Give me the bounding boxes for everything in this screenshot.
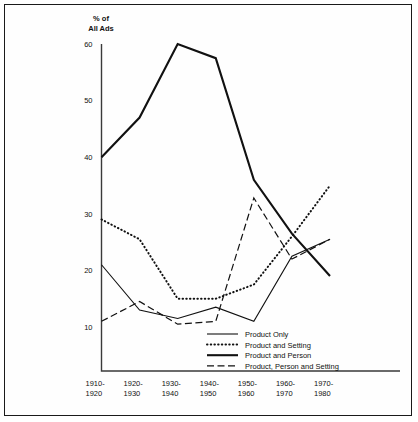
- legend-label-3: Product and Person: [245, 351, 311, 360]
- x-tick-label-bottom: 1940: [162, 389, 179, 398]
- x-tick-label-top: 1940-: [200, 379, 220, 388]
- y-tick-label: 20: [84, 266, 92, 275]
- chart-legend: Product OnlyProduct and SettingProduct a…: [207, 330, 339, 371]
- x-tick-label-bottom: 1970: [276, 389, 293, 398]
- x-tick-label-top: 1920-: [124, 379, 144, 388]
- x-tick-label-top: 1970-: [314, 379, 334, 388]
- x-axis-tick-labels: 1910-19201920-19301930-19401940-19501950…: [86, 379, 334, 398]
- x-tick-label-bottom: 1960: [238, 389, 255, 398]
- x-tick-label-bottom: 1930: [124, 389, 141, 398]
- x-tick-label-top: 1930-: [162, 379, 182, 388]
- y-tick-label: 30: [84, 210, 92, 219]
- line-chart: % ofAll Ads 102030405060 1910-19201920-1…: [0, 0, 418, 422]
- legend-label-4: Product, Person and Setting: [245, 362, 339, 371]
- y-tick-label: 40: [84, 153, 92, 162]
- y-axis-title: % ofAll Ads: [88, 14, 114, 33]
- data-series-group: [102, 44, 331, 324]
- y-axis-tick-labels: 102030405060: [84, 40, 92, 332]
- series-line-product-and-setting: [102, 186, 331, 299]
- x-tick-label-top: 1960-: [276, 379, 296, 388]
- y-tick-label: 60: [84, 40, 92, 49]
- y-tick-label: 50: [84, 96, 92, 105]
- x-tick-label-bottom: 1950: [200, 389, 217, 398]
- legend-label-2: Product and Setting: [245, 341, 311, 350]
- y-axis-title-line: % of: [93, 14, 109, 23]
- series-line-product-and-person: [102, 44, 331, 276]
- y-tick-label: 10: [84, 323, 92, 332]
- series-line-product-only: [102, 239, 331, 321]
- y-axis-title-line: All Ads: [88, 24, 114, 33]
- x-tick-label-bottom: 1920: [86, 389, 103, 398]
- x-tick-label-top: 1910-: [86, 379, 106, 388]
- x-tick-label-top: 1950-: [238, 379, 258, 388]
- x-tick-label-bottom: 1980: [314, 389, 331, 398]
- legend-label-1: Product Only: [245, 330, 289, 339]
